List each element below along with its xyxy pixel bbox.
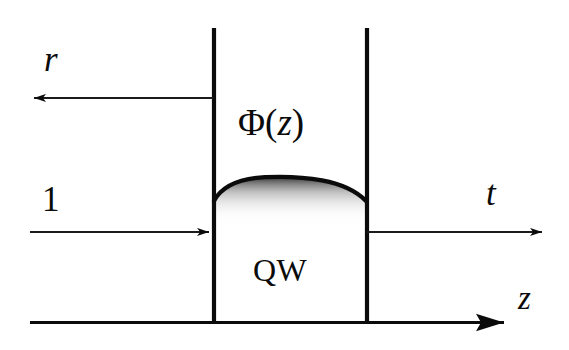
wavefunction-label: Φ(z) xyxy=(238,104,304,141)
phi-argument: z xyxy=(277,102,291,143)
quantum-well-label: QW xyxy=(253,254,307,286)
incident-amplitude-label: 1 xyxy=(42,182,60,217)
quantum-well-diagram: r 1 t z Φ(z) QW xyxy=(0,0,569,350)
z-axis-label: z xyxy=(518,282,531,315)
transmitted-amplitude-label: t xyxy=(486,176,496,211)
open-paren: ( xyxy=(265,102,277,143)
reflected-amplitude-label: r xyxy=(44,42,58,77)
diagram-canvas xyxy=(0,0,569,350)
close-paren: ) xyxy=(292,102,304,143)
phi-symbol: Φ xyxy=(238,102,265,143)
